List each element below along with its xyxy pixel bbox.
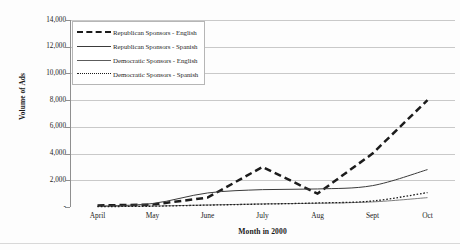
legend-item-republican-english[interactable]: Republican Sponsors - English	[75, 25, 202, 39]
legend-label-democratic-spanish: Democratic Sponsors - Spanish	[113, 71, 198, 78]
legend-line-swatch-republican-spanish	[77, 41, 111, 51]
footer-divider	[0, 243, 460, 244]
x-axis-title: Month in 2000	[70, 227, 455, 236]
legend-label-democratic-english: Democratic Sponsors - English	[113, 57, 197, 64]
chart-legend: Republican Sponsors - English Republican…	[72, 21, 205, 85]
legend-line-swatch-democratic-spanish	[77, 69, 111, 79]
data-series-layer	[0, 0, 460, 250]
legend-line-swatch-republican-english	[77, 27, 111, 37]
legend-item-republican-spanish[interactable]: Republican Sponsors - Spanish	[75, 39, 202, 53]
legend-line-swatch-democratic-english	[77, 55, 111, 65]
legend-label-republican-english: Republican Sponsors - English	[113, 29, 197, 36]
legend-item-democratic-spanish[interactable]: Democratic Sponsors - Spanish	[75, 67, 202, 81]
legend-label-republican-spanish: Republican Sponsors - Spanish	[113, 43, 198, 50]
legend-item-democratic-english[interactable]: Democratic Sponsors - English	[75, 53, 202, 67]
ad-volume-line-chart: Volume of Ads 14,00012,00010,0008,0006,0…	[0, 0, 460, 250]
series-line-republican-sponsors-spanish	[98, 170, 428, 207]
